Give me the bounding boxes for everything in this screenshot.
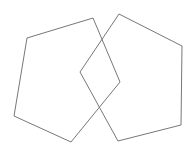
diagram-canvas bbox=[0, 0, 193, 155]
right-pentagon bbox=[80, 14, 182, 141]
